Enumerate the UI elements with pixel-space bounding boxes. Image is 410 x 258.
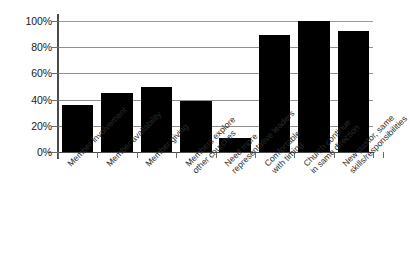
x-axis-category-label: New pastor, sameskills/responsibilities bbox=[341, 107, 409, 175]
